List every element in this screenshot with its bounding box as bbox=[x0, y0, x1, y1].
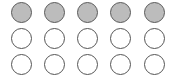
empty-circle-icon bbox=[110, 28, 131, 49]
empty-circle-icon bbox=[144, 28, 165, 49]
empty-circle-icon bbox=[11, 28, 32, 49]
empty-circle-icon bbox=[44, 54, 65, 75]
empty-circle-icon bbox=[77, 28, 98, 49]
empty-circle-icon bbox=[110, 54, 131, 75]
filled-circle-icon bbox=[144, 2, 165, 23]
filled-circle-icon bbox=[110, 2, 131, 23]
filled-circle-icon bbox=[44, 2, 65, 23]
filled-circle-icon bbox=[77, 2, 98, 23]
dot-grid bbox=[0, 0, 179, 83]
empty-circle-icon bbox=[11, 54, 32, 75]
empty-circle-icon bbox=[144, 54, 165, 75]
empty-circle-icon bbox=[44, 28, 65, 49]
empty-circle-icon bbox=[77, 54, 98, 75]
filled-circle-icon bbox=[11, 2, 32, 23]
